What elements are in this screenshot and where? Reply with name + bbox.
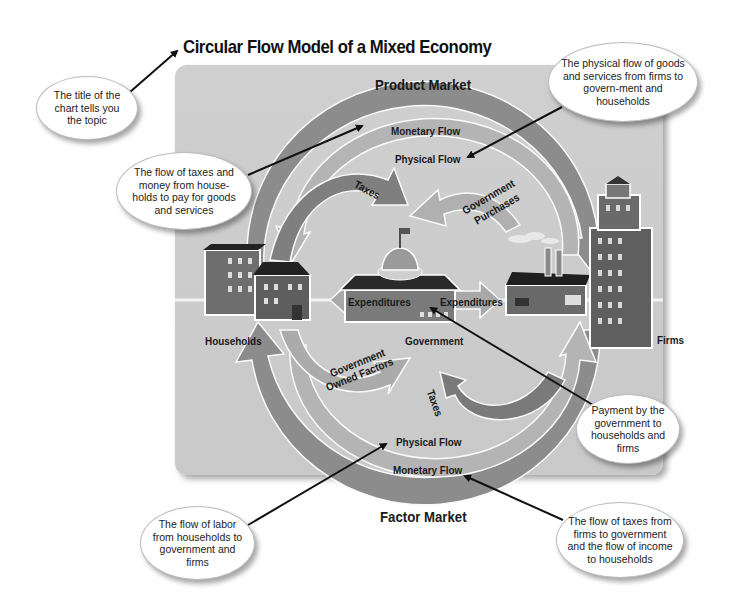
monetary-flow-top-label: Monetary Flow [391, 125, 460, 137]
callout-taxes-income-note: The flow of taxes from firms to governme… [556, 502, 684, 578]
pointer-title [130, 51, 177, 92]
callout-physical-flow-note: The physical flow of goods and services … [548, 42, 698, 122]
taxes-households-arrow [270, 168, 408, 262]
callout-payment-note: Payment by the government to households … [576, 394, 680, 464]
households-label: Households [205, 335, 262, 347]
expenditures-right-label: Expenditures [440, 296, 503, 308]
physical-flow-top-label: Physical Flow [395, 153, 460, 165]
physical-flow-bottom-label: Physical Flow [396, 436, 461, 448]
callout-title-note: The title of the chart tells you the top… [36, 76, 138, 140]
callout-taxes-money-note: The flow of taxes and money from house-h… [116, 152, 252, 230]
monetary-flow-bottom-label: Monetary Flow [393, 464, 462, 476]
pointer-taxes-income [465, 476, 563, 520]
government-label: Government [405, 335, 463, 347]
firms-label: Firms [657, 334, 684, 346]
expenditures-left-label: Expenditures [348, 296, 411, 308]
factor-market-label: Factor Market [380, 508, 467, 525]
product-market-label: Product Market [375, 76, 471, 93]
callout-labor-note: The flow of labor from households to gov… [140, 506, 255, 580]
